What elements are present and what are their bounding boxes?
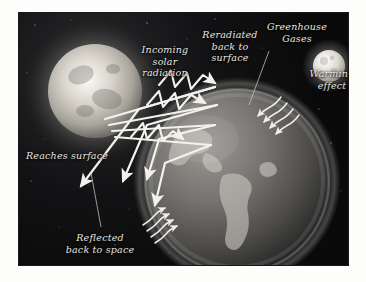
moon bbox=[302, 39, 348, 93]
space-scene: Incoming solar radiation Reradiated back… bbox=[19, 13, 348, 265]
diagram-page: Incoming solar radiation Reradiated back… bbox=[0, 0, 366, 282]
diagram-canvas bbox=[19, 13, 348, 265]
